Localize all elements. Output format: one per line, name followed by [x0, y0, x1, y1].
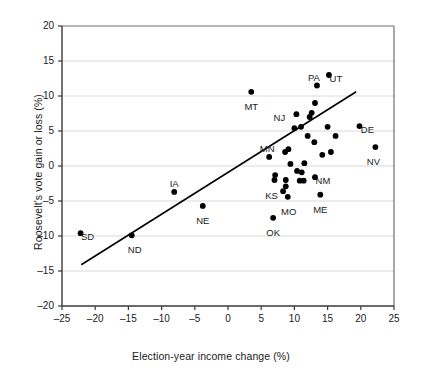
data-point — [301, 178, 307, 184]
data-point — [312, 100, 318, 106]
data-point — [325, 124, 331, 130]
data-point-label: ND — [127, 244, 143, 255]
data-point — [272, 177, 278, 183]
data-point — [298, 124, 304, 130]
data-point — [285, 194, 291, 200]
data-point-label: NJ — [271, 112, 287, 123]
data-point-label: PA — [306, 72, 322, 83]
y-tick-label: –5 — [14, 195, 54, 206]
x-axis-title: Election-year income change (%) — [0, 350, 422, 362]
data-point — [299, 169, 305, 175]
y-tick-label: 0 — [14, 160, 54, 171]
scatter-chart-figure: Election-year income change (%) Roosevel… — [0, 0, 422, 374]
data-point — [283, 177, 289, 183]
data-point — [319, 152, 325, 158]
data-point-label: MT — [243, 101, 259, 112]
data-point — [317, 192, 323, 198]
data-point — [129, 232, 135, 238]
y-tick-label: 15 — [14, 55, 54, 66]
data-point — [314, 83, 320, 89]
data-point — [309, 110, 315, 116]
y-axis-title: Roosevelt's vote gain or loss (%) — [32, 52, 44, 292]
y-tick-label: 10 — [14, 90, 54, 101]
data-point — [305, 133, 311, 139]
data-point — [293, 111, 299, 117]
data-point — [292, 125, 298, 131]
data-point-label: NE — [195, 215, 211, 226]
y-tick-label: –15 — [14, 265, 54, 276]
y-tick-label: 20 — [14, 20, 54, 31]
data-point — [283, 183, 289, 189]
data-point — [333, 133, 339, 139]
data-point — [328, 149, 334, 155]
data-point-label: KS — [263, 190, 279, 201]
data-point-label: DE — [359, 124, 375, 135]
data-point-label: NM — [315, 175, 331, 186]
data-point — [288, 161, 294, 167]
data-point — [301, 160, 307, 166]
data-point-label: MN — [259, 143, 275, 154]
data-point — [272, 172, 278, 178]
data-point — [286, 146, 292, 152]
data-point-label: MO — [281, 206, 297, 217]
data-point — [270, 215, 276, 221]
data-point — [311, 139, 317, 145]
data-point-label: UT — [328, 73, 344, 84]
y-tick-label: –20 — [14, 300, 54, 311]
data-point-label: OK — [265, 227, 281, 238]
x-tick-label: 25 — [374, 313, 414, 324]
data-point-label: ME — [312, 204, 328, 215]
data-point — [373, 144, 379, 150]
data-point — [266, 154, 272, 160]
data-point — [200, 203, 206, 209]
y-tick-label: 5 — [14, 125, 54, 136]
data-point-label: NV — [365, 156, 381, 167]
y-tick-label: –10 — [14, 230, 54, 241]
data-point-label: IA — [166, 178, 182, 189]
data-point — [248, 89, 254, 95]
data-point-label: SD — [80, 231, 96, 242]
data-point — [280, 188, 286, 194]
data-point — [171, 189, 177, 195]
